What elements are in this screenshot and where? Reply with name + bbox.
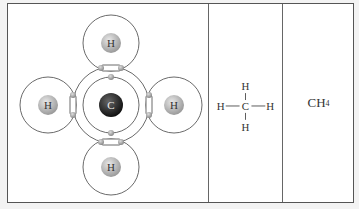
molecular-formula: CH4	[283, 4, 354, 202]
svg-text:H: H	[44, 99, 52, 111]
svg-text:H: H	[266, 100, 274, 112]
svg-text:H: H	[217, 100, 225, 112]
svg-text:C: C	[107, 99, 114, 111]
structural-formula: H H C H H	[209, 4, 283, 202]
svg-text:H: H	[170, 99, 178, 111]
svg-text:H: H	[242, 80, 250, 92]
svg-text:H: H	[107, 37, 115, 49]
svg-text:H: H	[107, 161, 115, 173]
figure-frame: H H H H C H H C H H CH4	[7, 3, 354, 203]
svg-text:C: C	[242, 100, 249, 112]
svg-text:H: H	[242, 121, 250, 133]
